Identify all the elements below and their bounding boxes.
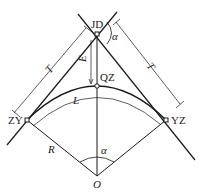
deflection-angle-arc bbox=[107, 22, 112, 44]
point-zy-marker bbox=[25, 118, 29, 122]
point-yz-marker bbox=[164, 118, 168, 122]
label-l: L bbox=[72, 94, 79, 106]
point-qz-marker bbox=[95, 84, 99, 88]
label-t-right: T bbox=[144, 60, 158, 73]
label-o: O bbox=[93, 178, 101, 190]
label-r: R bbox=[47, 143, 55, 155]
tangent-dim-right-tick-top bbox=[113, 19, 120, 25]
curve-diagram: JD QZ ZY YZ O α α R L T T E bbox=[0, 0, 202, 195]
label-yz: YZ bbox=[171, 114, 186, 126]
point-jd-marker bbox=[95, 32, 99, 36]
label-jd: JD bbox=[91, 18, 103, 30]
label-qz: QZ bbox=[100, 71, 115, 83]
label-alpha-top: α bbox=[112, 30, 118, 42]
label-e: E bbox=[76, 55, 88, 63]
label-alpha-center: α bbox=[101, 144, 107, 156]
tangent-dim-right-tick-bottom bbox=[176, 101, 184, 108]
radius-left bbox=[27, 120, 97, 176]
radius-right bbox=[97, 120, 166, 176]
label-t-left: T bbox=[42, 62, 56, 75]
label-zy: ZY bbox=[8, 114, 23, 126]
